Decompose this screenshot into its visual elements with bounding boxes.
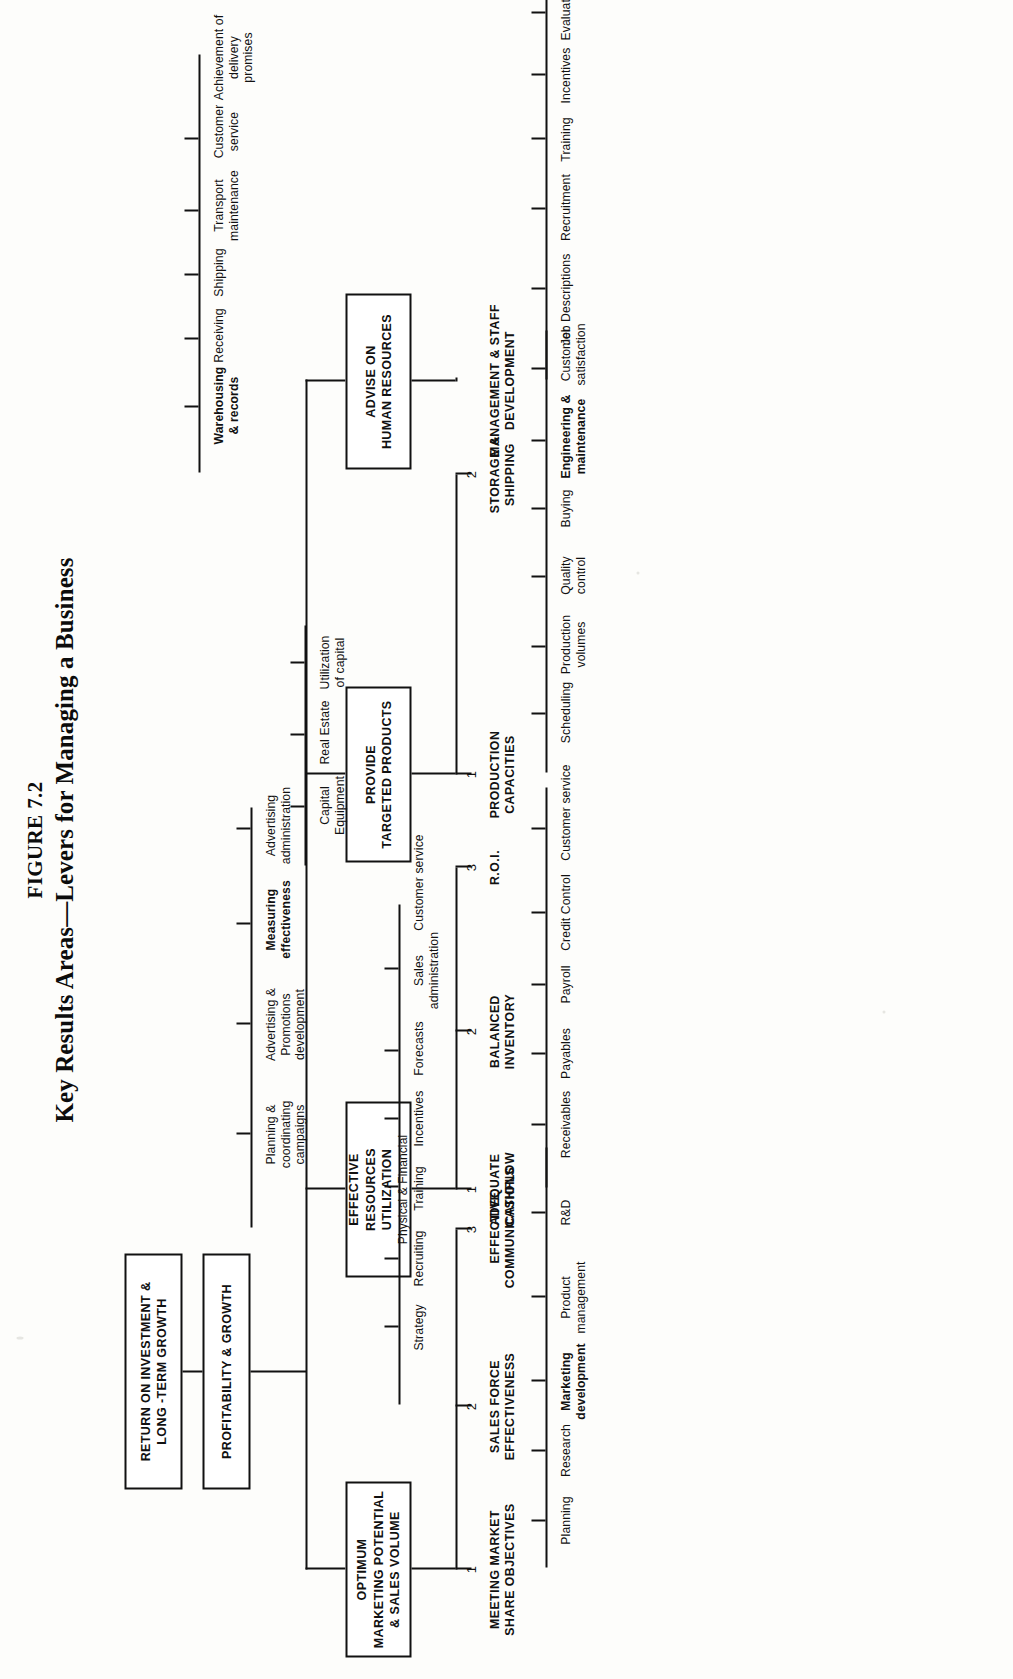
rb1-tick-2 <box>531 1052 545 1054</box>
spine-drop-marketing <box>305 1567 345 1569</box>
mb2-tick-5 <box>384 1049 398 1051</box>
pb2-leaf-transport-maintenance: Transport maintenance <box>211 159 240 251</box>
mb2-leaf-incentives: Incentives <box>411 1082 426 1154</box>
mb2-tick-1 <box>384 1325 398 1327</box>
pb2-leaf-achievement-delivery: Achievement of delivery promises <box>211 5 255 109</box>
rb1-tick-5 <box>531 827 545 829</box>
rb3-tick-3 <box>290 661 304 663</box>
marketing-branch-2-index: 2 <box>463 1376 479 1436</box>
rb1-leaf-customer-service: Customer service <box>558 757 573 867</box>
spine-drop-resources <box>305 1187 345 1189</box>
rb1-leaf-payroll: Payroll <box>558 953 573 1015</box>
rb1-leaf-credit-control: Credit Control <box>558 869 573 955</box>
hb1-tick-1 <box>531 287 545 289</box>
hb1-l2: DEVELOPMENT <box>502 330 516 429</box>
pb1-tick-2 <box>531 645 545 647</box>
pb2-tick-1 <box>184 405 198 407</box>
mb2-l2: FORCE <box>487 1360 501 1406</box>
mb2-leaf-recruiting: Recruiting <box>411 1223 426 1293</box>
rb1-leaf-payables: Payables <box>558 1019 573 1087</box>
figure-title: Key Results Areas—Levers for Managing a … <box>50 0 78 1679</box>
marketing-label-line1: OPTIMUM <box>353 1490 370 1648</box>
resources-branch-2-title: BALANCED INVENTORY <box>487 966 517 1096</box>
hb1-leaf-job-descriptions: Job Descriptions <box>558 249 573 349</box>
scan-speck <box>16 1336 23 1339</box>
rb1-tick-4 <box>531 911 545 913</box>
pb2-tick-3 <box>184 273 198 275</box>
resources-branch-1-title: ADEQUATE CASHFLOW <box>487 1124 517 1254</box>
resources-label-line3: Physical & Financial <box>395 1109 411 1269</box>
box-advise-human-resources: ADVISE ON HUMAN RESOURCES <box>345 293 411 469</box>
products-branch-bar <box>455 474 457 774</box>
rb3-tick-1 <box>290 805 304 807</box>
mb1-tick-5 <box>531 1211 545 1213</box>
rb1-l1: ADEQUATE <box>487 1153 501 1225</box>
products-label-line1: PROVIDE <box>362 700 379 848</box>
resources-branch-bar <box>455 867 457 1189</box>
rb1-tick-1 <box>531 1123 545 1125</box>
marketing-branch-1-index: 1 <box>463 1539 479 1599</box>
pb1-leaf-production-volumes: Production volumes <box>558 605 587 683</box>
pb2-tick-5 <box>184 137 198 139</box>
connector-roi-to-profit <box>182 1370 202 1372</box>
marketing-label-line3: & SALES VOLUME <box>386 1490 403 1648</box>
hr-branch-bar <box>455 377 457 381</box>
mb1-leaf-research: Research <box>558 1419 573 1481</box>
rb3-l1: R.O.I. <box>487 849 501 884</box>
pb1-tick-3 <box>531 575 545 577</box>
mb1-tick-1 <box>531 1519 545 1521</box>
pb2-rail <box>198 54 200 472</box>
mb2-tick-3 <box>384 1185 398 1187</box>
rb1-rail <box>545 787 547 1187</box>
mb2-leaf-strategy: Strategy <box>411 1296 426 1358</box>
rb1-tick-3 <box>531 983 545 985</box>
pb1-tick-6 <box>531 367 545 369</box>
resources-label-line2: RESOURCES UTILIZATION <box>362 1109 395 1269</box>
mb2-tick-2 <box>384 1257 398 1259</box>
products-label-line2: TARGETED PRODUCTS <box>378 700 395 848</box>
mb2-tick-6 <box>384 967 398 969</box>
marketing-stem <box>411 1567 455 1569</box>
diagram-canvas: FIGURE 7.2 Key Results Areas—Levers for … <box>0 0 1013 1679</box>
rb1-l2: CASHFLOW <box>502 1151 516 1226</box>
rb3-leaf-utilization-capital: Utilization of capital <box>317 621 346 703</box>
hb1-tick-3 <box>531 137 545 139</box>
mb2-tick-4 <box>384 1117 398 1119</box>
pb1-tick-1 <box>531 712 545 714</box>
mb1-leaf-product-management: Product management <box>558 1251 587 1343</box>
figure-number: FIGURE 7.2 <box>22 0 47 1679</box>
hr-label-line2: HUMAN RESOURCES <box>378 313 395 448</box>
hb1-rail <box>545 0 547 379</box>
hb1-leaf-training: Training <box>558 107 573 171</box>
pb2-tick-2 <box>184 337 198 339</box>
mb2-l3: EFFECTIVENESS <box>502 1352 516 1460</box>
pb1-rail <box>545 330 547 772</box>
mb2-leaf-customer-service: Customer service <box>411 827 426 937</box>
resources-branch-3-index: 3 <box>463 837 479 897</box>
pb1-tick-4 <box>531 507 545 509</box>
hb1-tick-4 <box>531 73 545 75</box>
products-branch-1-index: 1 <box>463 744 479 804</box>
marketing-branch-1-title: MEETING MARKET SHARE OBJECTIVES <box>487 1499 517 1639</box>
mb3-leaf-measuring-effectiveness: Measuring effectiveness <box>263 869 292 969</box>
pb2-tick-4 <box>184 209 198 211</box>
rb3-leaf-capital-equipment: Capital Equipment <box>317 763 346 847</box>
rotated-figure-stage: FIGURE 7.2 Key Results Areas—Levers for … <box>0 0 1013 1679</box>
box-return-on-investment: RETURN ON INVESTMENT & LONG -TERM GROWTH <box>124 1253 182 1489</box>
hr-stem <box>411 379 455 381</box>
mb1-tick-4 <box>531 1295 545 1297</box>
roi-label-line1: RETURN ON INVESTMENT & <box>137 1281 154 1461</box>
mb2-leaf-forecasts: Forecasts <box>411 1013 426 1083</box>
profitability-label: PROFITABILITY & GROWTH <box>218 1284 235 1459</box>
hr-branch-1-title: MANAGEMENT & STAFF DEVELOPMENT <box>487 291 517 469</box>
mb3-tick-2 <box>236 1022 250 1024</box>
pb1-l1: PRODUCTION <box>487 730 501 818</box>
pb1-tick-5 <box>531 439 545 441</box>
mb1-tick-2 <box>531 1449 545 1451</box>
box-effective-resources: EFFECTIVE RESOURCES UTILIZATION Physical… <box>345 1101 411 1277</box>
mb2-l1: SALES <box>487 1409 501 1453</box>
mb3-tick-3 <box>236 922 250 924</box>
box-provide-targeted-products: PROVIDE TARGETED PRODUCTS <box>345 686 411 862</box>
rb2-l2: INVENTORY <box>502 993 516 1069</box>
spine-drop-hr <box>305 379 345 381</box>
